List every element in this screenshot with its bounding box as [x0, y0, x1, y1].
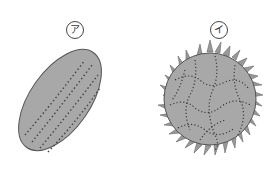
pollen-grain-a [2, 35, 118, 164]
pollen-grain-i [158, 40, 263, 155]
pollen-illustrations [0, 0, 279, 185]
